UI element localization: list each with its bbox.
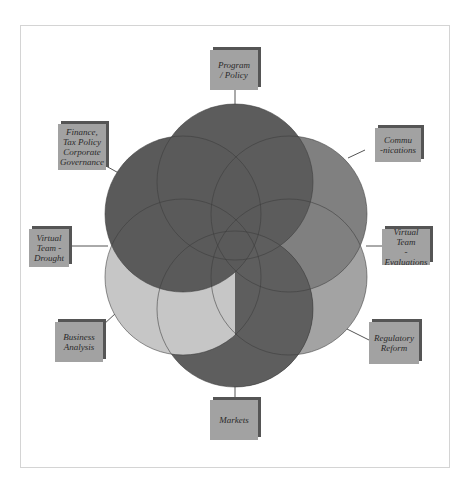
- label-box-finance-tax-policy: Finance, Tax Policy Corporate Governance: [58, 124, 106, 170]
- communications-connector: [348, 150, 365, 158]
- label-box-program-policy: Program / Policy: [210, 50, 258, 90]
- label-box-communications: Commu -nications: [375, 128, 421, 162]
- business-analysis-connector: [103, 313, 116, 325]
- label-box-business-analysis: Business Analysis: [55, 322, 103, 362]
- label-box-regulatory-reform: Regulatory Reform: [369, 322, 419, 364]
- label-box-virtual-team-evaluations: Virtual Team - Evaluations: [382, 229, 430, 265]
- label-box-markets: Markets: [210, 400, 258, 440]
- regulatory-reform-connector: [347, 329, 369, 340]
- label-box-virtual-team-drought: Virtual Team - Drought: [29, 229, 69, 267]
